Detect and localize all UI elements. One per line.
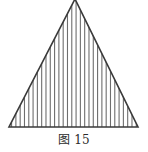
caption-number-text: 15 (74, 134, 89, 146)
figure-caption: 图 15 (0, 130, 148, 150)
figure-container: 图 15 (0, 0, 148, 152)
caption-label-text: 图 (58, 134, 70, 146)
